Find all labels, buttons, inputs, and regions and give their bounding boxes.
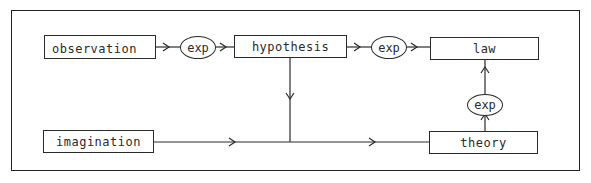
node-law: law bbox=[430, 37, 539, 60]
node-observation: observation bbox=[44, 35, 156, 59]
node-hypothesis: hypothesis bbox=[234, 35, 347, 58]
scientific-method-diagram: observation exp hypothesis exp law exp i… bbox=[0, 0, 591, 183]
node-imagination: imagination bbox=[43, 130, 154, 153]
connector-lines bbox=[0, 0, 591, 183]
node-exp-1: exp bbox=[180, 36, 216, 59]
node-exp-2: exp bbox=[371, 36, 407, 59]
node-exp-3: exp bbox=[467, 94, 503, 116]
node-theory: theory bbox=[429, 131, 538, 154]
